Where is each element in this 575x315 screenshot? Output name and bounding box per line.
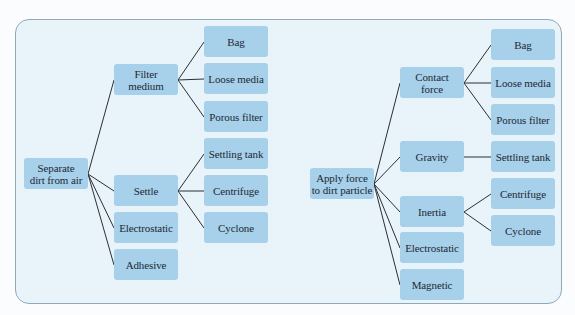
left-leaf-loose-media: Loose media <box>204 63 268 94</box>
diagram-canvas: Separate dirt from air Filter medium Set… <box>0 0 575 315</box>
right-leaf-centrifuge: Centrifuge <box>491 178 555 209</box>
left-leaf-settling-tank: Settling tank <box>204 138 268 169</box>
left-branch-adhesive: Adhesive <box>114 249 178 280</box>
right-leaf-loose-media: Loose media <box>491 67 555 98</box>
left-root-node: Separate dirt from air <box>24 158 88 189</box>
right-branch-gravity: Gravity <box>400 141 464 172</box>
right-leaf-porous-filter: Porous filter <box>491 104 555 135</box>
right-leaf-bag: Bag <box>491 29 555 60</box>
left-branch-electrostatic: Electrostatic <box>114 212 178 243</box>
left-leaf-porous-filter: Porous filter <box>204 101 268 132</box>
right-leaf-cyclone: Cyclone <box>491 215 555 246</box>
right-leaf-settling-tank: Settling tank <box>491 141 555 172</box>
right-branch-magnetic: Magnetic <box>400 269 464 300</box>
left-leaf-centrifuge: Centrifuge <box>204 175 268 206</box>
right-root-node: Apply force to dirt particle <box>310 168 374 199</box>
right-branch-electrostatic: Electrostatic <box>400 232 464 263</box>
right-branch-contact-force: Contact force <box>400 67 464 98</box>
left-branch-settle: Settle <box>114 175 178 206</box>
left-leaf-bag: Bag <box>204 26 268 57</box>
left-branch-filter-medium: Filter medium <box>114 64 178 95</box>
left-leaf-cyclone: Cyclone <box>204 212 268 243</box>
right-branch-inertia: Inertia <box>400 196 464 227</box>
diagram-panel <box>15 19 562 304</box>
